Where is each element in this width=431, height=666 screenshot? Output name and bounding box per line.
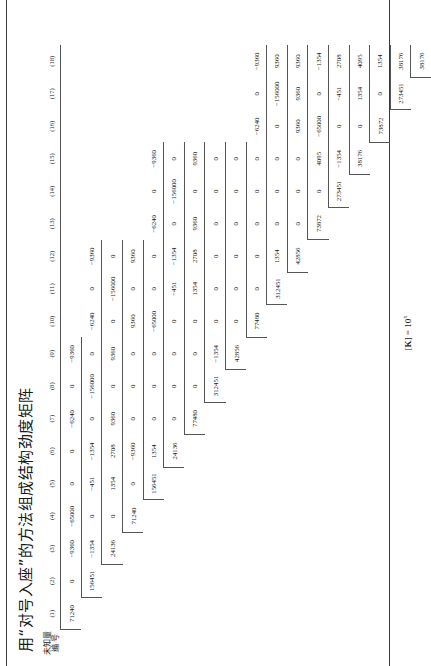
row-stub-5 [143,630,164,656]
matrix-empty-r10-c1 [246,598,267,631]
matrix-empty-r12-c8 [287,370,308,403]
matrix-cell-r14-c14: 273451 [329,175,350,208]
column-header-3: (3) [44,533,61,566]
matrix-empty-r11-c2 [267,565,288,598]
matrix-empty-r6-c4 [164,500,185,533]
matrix-empty-r15-c12 [349,240,370,273]
column-header-9: (9) [44,338,61,371]
column-header-8: (8) [44,370,61,403]
matrix-cell-r5-c12: 0 [143,240,164,273]
matrix-empty-r2-c14 [81,175,102,208]
matrix-cell-r3-c3: 24136 [102,533,123,566]
matrix-cell-r11-c14: 0 [267,175,288,208]
matrix-empty-r13-c2 [308,565,329,598]
matrix-cell-r3-c6: 2708 [102,435,123,468]
table-row: 42856000000 [226,45,247,656]
matrix-empty-r11-c4 [267,500,288,533]
matrix-empty-r4-c1 [123,598,144,631]
matrix-empty-r9-c17 [226,78,247,111]
matrix-cell-r10-c10: 77480 [246,305,267,338]
matrix-cell-r6-c14: −156000 [164,175,185,208]
matrix-empty-r5-c2 [143,565,164,598]
matrix-cell-r12-c17: 9360 [287,78,308,111]
matrix-empty-r12-c7 [287,403,308,436]
matrix-cell-r1-c6: 0 [61,435,82,468]
column-header-11: (11) [44,273,61,306]
matrix-empty-r6-c1 [164,598,185,631]
matrix-cell-r4-c5: 0 [123,468,144,501]
matrix-cell-r8-c11: 0 [205,273,226,306]
matrix-empty-r11-c1 [267,598,288,631]
matrix-empty-r14-c11 [329,273,350,306]
table-row: 7387201354 [370,45,391,656]
matrix-empty-r13-c10 [308,305,329,338]
matrix-cell-r6-c12: −1354 [164,240,185,273]
matrix-cell-r9-c15: 0 [226,143,247,176]
matrix-cell-r2-c6: −1354 [81,435,102,468]
matrix-empty-r9-c16 [226,110,247,143]
column-header-13: (13) [44,208,61,241]
matrix-empty-r7-c17 [184,78,205,111]
matrix-empty-r4-c17 [123,78,144,111]
matrix-empty-r7-c2 [184,565,205,598]
table-row: 38176013544095 [349,45,370,656]
matrix-empty-r1-c15 [61,143,82,176]
matrix-empty-r3-c13 [102,208,123,241]
matrix-empty-r18-c2 [411,565,431,598]
matrix-empty-r16-c14 [370,175,391,208]
matrix-empty-r16-c11 [370,273,391,306]
matrix-empty-r16-c5 [370,468,391,501]
matrix-cell-r5-c5: 156451 [143,468,164,501]
matrix-empty-r16-c4 [370,500,391,533]
matrix-empty-r11-c8 [267,370,288,403]
matrix-cell-r7-c8: 0 [184,370,205,403]
matrix-cell-r4-c11: 0 [123,273,144,306]
matrix-empty-r7-c1 [184,598,205,631]
matrix-empty-r18-c4 [411,500,431,533]
matrix-empty-r11-c6 [267,435,288,468]
matrix-empty-r14-c9 [329,338,350,371]
matrix-empty-r16-c3 [370,533,391,566]
matrix-empty-r18-c16 [411,110,431,143]
matrix-empty-r8-c18 [205,45,226,78]
matrix-cell-r13-c17: 0 [308,78,329,111]
matrix-empty-r6-c2 [164,565,185,598]
caption-equals-ten: ] = 10 [403,319,413,341]
matrix-cell-r11-c18: 9360 [267,45,288,78]
matrix-cell-r16-c17: 0 [370,78,391,111]
matrix-empty-r10-c7 [246,403,267,436]
matrix-cell-r1-c8: 0 [61,370,82,403]
matrix-empty-r8-c16 [205,110,226,143]
matrix-cell-r6-c9: 0 [164,338,185,371]
matrix-empty-r15-c14 [349,175,370,208]
matrix-empty-r8-c2 [205,565,226,598]
matrix-cell-r7-c11: 1354 [184,273,205,306]
matrix-empty-r6-c5 [164,468,185,501]
matrix-empty-r15-c9 [349,338,370,371]
matrix-cell-r2-c10: −6240 [81,305,102,338]
matrix-empty-r18-c14 [411,175,431,208]
matrix-empty-r6-c3 [164,533,185,566]
matrix-empty-r8-c1 [205,598,226,631]
matrix-empty-r11-c7 [267,403,288,436]
table-row: 7748000000−62400−9360 [246,45,267,656]
matrix-cell-r5-c13: −6240 [143,208,164,241]
matrix-cell-r1-c1: 71240 [61,598,82,631]
matrix-cell-r7-c14: 0 [184,175,205,208]
matrix-cell-r5-c9: 0 [143,338,164,371]
matrix-empty-r9-c5 [226,468,247,501]
matrix-empty-r14-c10 [329,305,350,338]
matrix-cell-r5-c8: 0 [143,370,164,403]
matrix-cell-r4-c10: 9360 [123,305,144,338]
matrix-cell-r3-c5: 1354 [102,468,123,501]
matrix-cell-r1-c2: 0 [61,565,82,598]
matrix-cell-r10-c15: 0 [246,143,267,176]
matrix-cell-r12-c16: 9360 [287,110,308,143]
matrix-cell-r14-c18: 2708 [329,45,350,78]
matrix-cell-r5-c14: 0 [143,175,164,208]
matrix-empty-r18-c3 [411,533,431,566]
matrix-cell-r2-c5: −451 [81,468,102,501]
top-rule [6,0,7,666]
matrix-cell-r3-c9: 9360 [102,338,123,371]
